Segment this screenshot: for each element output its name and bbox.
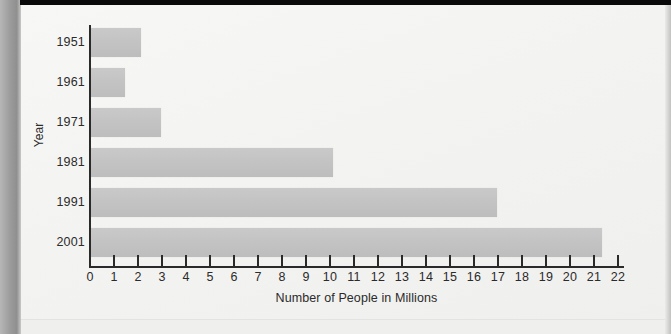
- y-tick-label: 1971: [37, 115, 85, 129]
- bar: [91, 28, 141, 57]
- bar-chart: Year 1951 1961 1971 1981 1991 2001 01234…: [0, 0, 671, 334]
- x-axis-tick-mark: [545, 255, 547, 266]
- y-axis-line: [89, 25, 91, 268]
- x-axis-tick-mark: [521, 255, 523, 266]
- x-axis-title: Number of People in Millions: [89, 291, 624, 305]
- x-axis-tick-mark: [161, 255, 163, 266]
- x-axis-tick-mark: [257, 255, 259, 266]
- y-tick-label: 1951: [37, 35, 85, 49]
- x-axis-tick-mark: [209, 255, 211, 266]
- x-axis-tick-mark: [137, 255, 139, 266]
- x-axis-tick-mark: [89, 255, 91, 266]
- chart-screenshot: Year 1951 1961 1971 1981 1991 2001 01234…: [0, 0, 671, 334]
- y-tick-label: 1961: [37, 75, 85, 89]
- x-axis-tick-mark: [617, 255, 619, 266]
- bar: [91, 188, 497, 217]
- x-axis-line: [89, 266, 624, 268]
- bar: [91, 148, 333, 177]
- bar: [91, 68, 125, 97]
- x-axis-tick-mark: [329, 255, 331, 266]
- bar: [91, 228, 602, 257]
- x-axis-tick-mark: [185, 255, 187, 266]
- y-tick-label: 1991: [37, 195, 85, 209]
- x-axis-tick-mark: [497, 255, 499, 266]
- x-axis-tick-mark: [305, 255, 307, 266]
- x-axis-tick-mark: [377, 255, 379, 266]
- x-axis-tick-mark: [449, 255, 451, 266]
- x-axis-tick-mark: [473, 255, 475, 266]
- x-axis-tick-mark: [401, 255, 403, 266]
- x-axis-tick-mark: [593, 255, 595, 266]
- x-axis-tick-mark: [425, 255, 427, 266]
- bar: [91, 108, 161, 137]
- y-tick-label: 1981: [37, 155, 85, 169]
- y-tick-label: 2001: [37, 235, 85, 249]
- x-axis-tick-mark: [569, 255, 571, 266]
- x-axis-tick-mark: [113, 255, 115, 266]
- x-tick-label: 22: [603, 270, 633, 284]
- x-axis-tick-mark: [353, 255, 355, 266]
- x-axis-tick-mark: [233, 255, 235, 266]
- x-axis-tick-mark: [281, 255, 283, 266]
